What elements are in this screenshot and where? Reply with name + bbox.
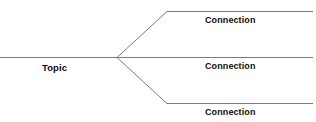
concept-map-canvas: Topic Connection Connection Connection [0, 0, 316, 122]
connection-label-down: Connection [205, 107, 256, 118]
connection-label-middle: Connection [205, 61, 256, 72]
connection-label-up: Connection [205, 15, 256, 26]
diagram-lines [0, 0, 316, 122]
topic-label: Topic [42, 62, 67, 73]
